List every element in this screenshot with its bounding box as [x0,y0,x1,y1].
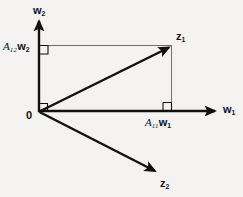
vector-label-z2: z2 [160,178,170,191]
origin-label: 0 [26,110,32,121]
component-label-a12w2-matrix: A [3,40,10,52]
component-label-a11w1-matrix: A [145,116,152,128]
axis-label-w1: w1 [223,104,236,117]
axis-label-w2-symbol: w [33,4,42,16]
axis-label-w2-subscript: 2 [42,10,46,17]
vector-z2 [40,112,156,171]
component-label-a12w2-vector-subscript: 2 [26,46,30,53]
axis-label-w2: w2 [33,5,46,18]
right-angle-horizontal-projection-icon [163,103,172,112]
right-angle-vertical-projection-icon [40,46,49,55]
component-label-a11w1-vector: w [159,116,168,128]
component-label-a11w1-matrix-subscript: 11 [152,122,159,129]
vector-label-z2-subscript: 2 [166,183,170,190]
component-label-a11w1-vector-subscript: 1 [167,122,171,129]
component-label-a12w2: A12w2 [3,41,30,54]
vector-label-z1: z1 [176,31,186,44]
axis-label-w1-subscript: 1 [232,109,236,116]
axis-label-w1-symbol: w [223,103,232,115]
vector-label-z1-subscript: 1 [182,36,186,43]
vector-decomposition-figure: w2 w1 z1 z2 A12w2 A11w1 0 [0,0,243,197]
component-label-a12w2-vector: w [17,40,26,52]
vector-z1 [40,48,170,112]
component-label-a11w1: A11w1 [145,117,171,130]
figure-canvas [0,0,243,197]
